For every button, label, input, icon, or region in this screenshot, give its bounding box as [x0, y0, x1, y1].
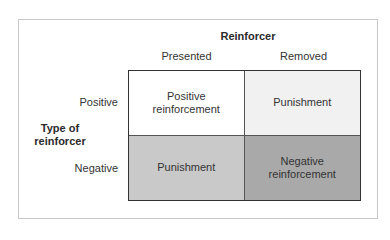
column-header-presented: Presented	[128, 50, 245, 62]
type-of-reinforcer-label: Type of reinforcer	[30, 122, 90, 148]
reinforcer-title: Reinforcer	[188, 30, 308, 42]
reinforcement-matrix: Positive reinforcement Punishment Punish…	[128, 70, 361, 201]
cell-label: Punishment	[157, 161, 215, 174]
row-header-negative: Negative	[48, 162, 118, 174]
cell-label: Positive reinforcement	[146, 90, 226, 116]
cell-negative-removed: Negative reinforcement	[245, 136, 361, 201]
row-header-positive: Positive	[48, 96, 118, 108]
cell-positive-presented: Positive reinforcement	[129, 71, 245, 136]
cell-label: Negative reinforcement	[262, 155, 342, 181]
cell-positive-removed: Punishment	[245, 71, 361, 136]
cell-label: Punishment	[273, 96, 331, 109]
cell-negative-presented: Punishment	[129, 136, 245, 201]
column-header-removed: Removed	[245, 50, 362, 62]
